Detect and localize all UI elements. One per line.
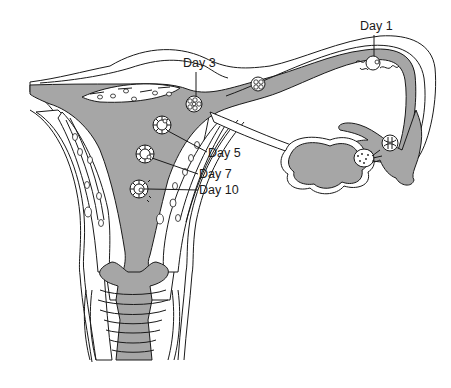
- label-day7: Day 7: [199, 167, 232, 181]
- uterus-diagram: Day 1 Day 3 Day 5 Day 7 Day 10: [0, 0, 451, 388]
- stage-day7-blastocyst: [136, 145, 154, 163]
- released-ovum: [382, 135, 398, 151]
- label-day10: Day 10: [199, 183, 239, 197]
- label-day3: Day 3: [183, 56, 216, 70]
- corpus-luteum: [354, 149, 374, 167]
- label-day5: Day 5: [208, 146, 241, 160]
- ovary-stroma: [289, 143, 367, 189]
- stage-day2-cleavage: [251, 77, 265, 91]
- stage-day3-morula: [186, 96, 202, 112]
- label-day1: Day 1: [360, 19, 393, 33]
